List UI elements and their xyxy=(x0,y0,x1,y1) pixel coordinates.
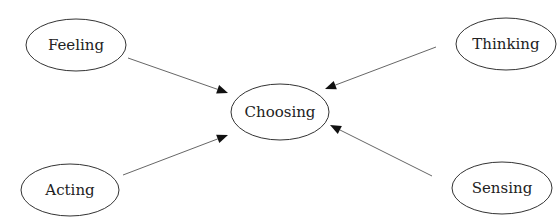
node-acting: Acting xyxy=(21,164,119,216)
edge-line xyxy=(340,130,432,176)
concept-diagram: FeelingThinkingChoosingActingSensing xyxy=(0,0,560,223)
arrowhead-icon xyxy=(330,125,342,134)
nodes-layer: FeelingThinkingChoosingActingSensing xyxy=(21,18,556,216)
arrowhead-icon xyxy=(216,85,228,93)
edge-feeling-to-choosing xyxy=(128,58,228,94)
node-label: Sensing xyxy=(472,179,533,197)
node-label: Feeling xyxy=(48,36,105,54)
node-choosing: Choosing xyxy=(231,84,329,140)
node-feeling: Feeling xyxy=(26,19,126,71)
edge-acting-to-choosing xyxy=(123,135,228,175)
edge-line xyxy=(128,58,218,89)
node-label: Acting xyxy=(44,181,95,199)
edge-line xyxy=(335,47,436,85)
edge-sensing-to-choosing xyxy=(330,125,432,176)
node-label: Thinking xyxy=(472,35,540,53)
edge-line xyxy=(123,139,218,175)
node-sensing: Sensing xyxy=(452,162,552,214)
arrowhead-icon xyxy=(325,81,337,89)
arrowhead-icon xyxy=(216,135,228,143)
edge-thinking-to-choosing xyxy=(325,47,436,89)
node-thinking: Thinking xyxy=(456,18,556,70)
node-label: Choosing xyxy=(245,103,316,121)
